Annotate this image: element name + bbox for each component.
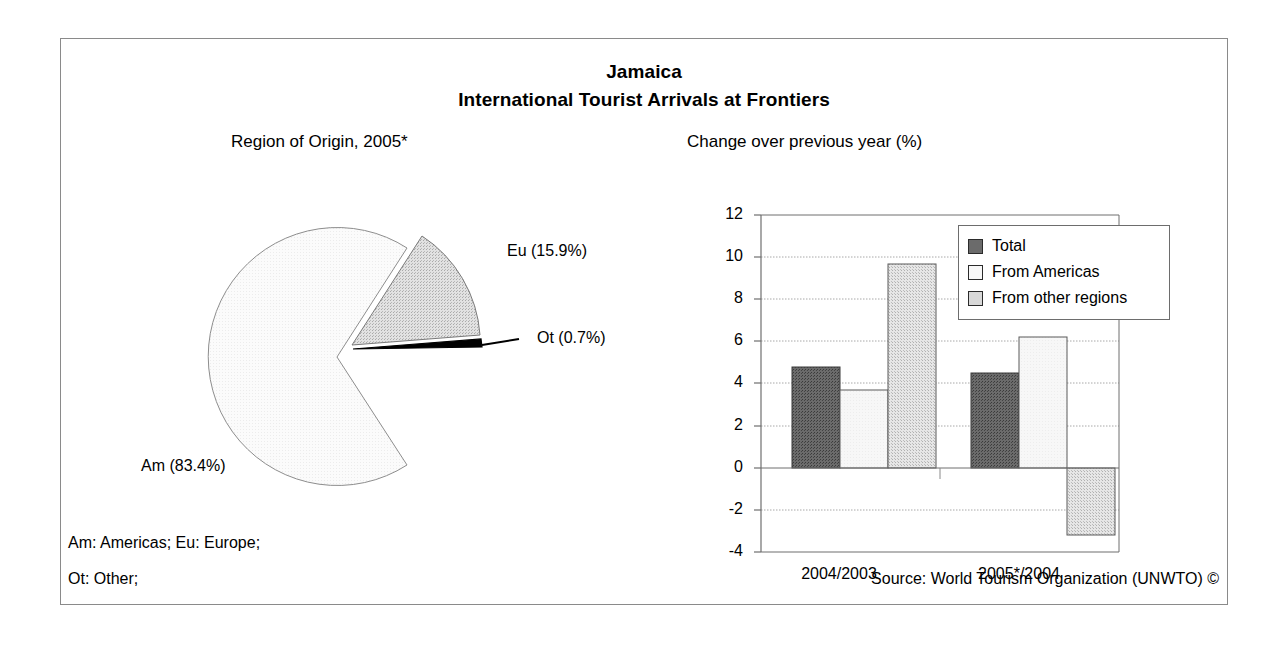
legend-swatch-from-americas — [968, 265, 983, 280]
footnote-abbreviations-line-1: Am: Americas; Eu: Europe; — [68, 534, 260, 552]
bar-chart-title: Change over previous year (%) — [687, 132, 922, 152]
bar-other-2005-2004 — [1067, 468, 1115, 535]
legend-label-from-other-regions: From other regions — [992, 290, 1127, 306]
y-tick-label-12: 12 — [699, 205, 743, 223]
legend-swatch-total — [968, 239, 983, 254]
legend-label-from-americas: From Americas — [992, 264, 1100, 280]
footnote-abbreviations-line-2: Ot: Other; — [68, 570, 138, 588]
page-subtitle: International Tourist Arrivals at Fronti… — [61, 89, 1227, 111]
pie-label-eu: Eu (15.9%) — [507, 242, 587, 260]
y-tick-label-4: 4 — [699, 373, 743, 391]
bar-americas-2004-2003 — [840, 390, 888, 468]
bar-other-2004-2003 — [888, 264, 936, 468]
bar-chart-graphic — [661, 159, 1221, 579]
pie-chart-title: Region of Origin, 2005* — [231, 132, 408, 152]
pie-label-ot: Ot (0.7%) — [537, 329, 605, 347]
y-tick-label-8: 8 — [699, 289, 743, 307]
legend-label-total: Total — [992, 238, 1026, 254]
pie-label-am: Am (83.4%) — [141, 457, 225, 475]
bar-chart-y-ticks — [754, 215, 761, 552]
pie-chart: Eu (15.9%) Ot (0.7%) Am (83.4%) — [141, 159, 661, 529]
pie-leader-ot — [482, 339, 519, 345]
y-tick-label-10: 10 — [699, 247, 743, 265]
legend-item-from-other-regions[interactable]: From other regions — [968, 285, 1160, 311]
y-tick-label-neg4: -4 — [699, 542, 743, 560]
chart-frame: Jamaica International Tourist Arrivals a… — [60, 38, 1228, 605]
bar-total-2005-2004 — [971, 373, 1019, 468]
bar-chart-legend: Total From Americas From other regions — [958, 225, 1170, 320]
pie-slice-am — [208, 228, 407, 486]
page-title: Jamaica — [61, 61, 1227, 83]
bar-chart: 12 10 8 6 4 2 0 -2 -4 2004/2003 2005*/20… — [661, 159, 1221, 579]
legend-item-total[interactable]: Total — [968, 233, 1160, 259]
bar-americas-2005-2004 — [1019, 337, 1067, 468]
legend-swatch-from-other-regions — [968, 291, 983, 306]
legend-item-from-americas[interactable]: From Americas — [968, 259, 1160, 285]
bar-total-2004-2003 — [792, 367, 840, 468]
y-tick-label-neg2: -2 — [699, 500, 743, 518]
y-tick-label-6: 6 — [699, 331, 743, 349]
y-tick-label-2: 2 — [699, 416, 743, 434]
source-note: Source: World Tourism Organization (UNWT… — [871, 570, 1219, 588]
chart-page: Jamaica International Tourist Arrivals a… — [0, 0, 1282, 649]
y-tick-label-0: 0 — [699, 458, 743, 476]
